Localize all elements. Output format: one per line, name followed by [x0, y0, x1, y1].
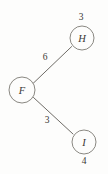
graph-figure: H 3 F I 4 6 3 [0, 0, 108, 174]
node-h-label: H [77, 33, 87, 44]
node-h-annotation: 3 [79, 12, 84, 22]
edge-f-h [33, 47, 72, 84]
edge-f-i [34, 98, 74, 135]
node-i-label: I [81, 137, 86, 148]
edge-weight-f-i: 3 [45, 115, 50, 125]
node-i-annotation: 4 [82, 156, 87, 166]
edge-weight-f-h: 6 [43, 52, 48, 62]
node-f-label: F [18, 85, 26, 96]
graph-canvas: H 3 F I 4 6 3 [0, 0, 108, 174]
